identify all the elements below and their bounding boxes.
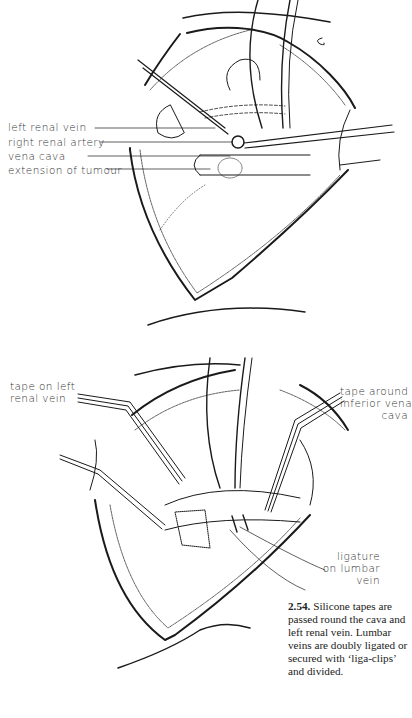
label-right-renal-artery: right renal artery bbox=[8, 136, 105, 148]
label-line: inferior vena bbox=[340, 397, 408, 409]
label-line: ligature bbox=[322, 550, 380, 562]
label-line: cava bbox=[340, 409, 408, 421]
label-ligature-on-lumbar-vein: ligature on lumbar vein bbox=[322, 550, 380, 586]
label-line: vein bbox=[322, 574, 380, 586]
label-line: tape around bbox=[340, 385, 408, 397]
label-tape-around-ivc: tape around inferior vena cava bbox=[340, 385, 408, 421]
label-line: renal vein bbox=[10, 392, 75, 404]
label-left-renal-vein: left renal vein bbox=[8, 121, 86, 133]
label-vena-cava: vena cava bbox=[8, 150, 66, 162]
label-line: on lumbar bbox=[322, 562, 380, 574]
label-tape-on-left-renal-vein: tape on left renal vein bbox=[10, 380, 75, 404]
label-line: tape on left bbox=[10, 380, 75, 392]
label-extension-of-tumour: extension of tumour bbox=[8, 164, 122, 176]
figure-caption: 2.54. Silicone tapes are passed round th… bbox=[288, 600, 412, 678]
textbook-page: left renal vein right renal artery vena … bbox=[0, 0, 412, 718]
figure-number: 2.54. bbox=[288, 600, 310, 612]
